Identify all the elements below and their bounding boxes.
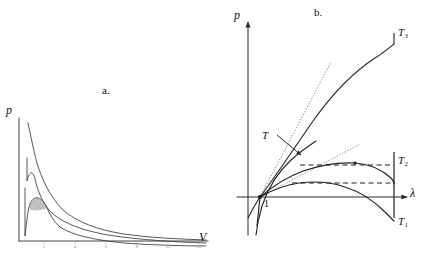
panel-b-tangent-upper (260, 62, 331, 197)
panel-b-curve-label-T1: T1 (398, 216, 408, 228)
panel-a-tick-label-0: 2 (43, 244, 46, 249)
panel-b-curve-steep (256, 141, 316, 235)
panel-b-curve-label-T3-base: T (398, 26, 404, 38)
panel-a-x-axis-label: V (199, 231, 206, 243)
panel-a-y-axis-label: p (6, 104, 12, 116)
panel-b-curve-label-T3-sub: 3 (405, 32, 408, 39)
panel-b-T2-crest-dot (354, 162, 357, 165)
panel-b-curve-label-T2-sub: 2 (405, 160, 408, 167)
panel-b-tag: b. (314, 6, 322, 18)
panel-a-loop-shading (29, 198, 47, 211)
panel-b-curve-T1 (260, 182, 394, 221)
panel-b-origin-node (258, 195, 262, 199)
panel-b-origin-label: 1 (264, 199, 269, 209)
panel-a-curve-upper (28, 123, 206, 240)
panel-a-tick-label-1: 4 (74, 244, 77, 249)
panel-a: a. p V 2 4 6 8 10 12 (0, 0, 215, 253)
panel-b-curve-label-T2: T2 (398, 155, 408, 167)
panel-b-x-axis-label: λ (410, 187, 415, 199)
panel-b-T-label: T (262, 130, 268, 141)
panel-a-tag: a. (102, 84, 110, 96)
panel-a-tick-label-3: 8 (136, 244, 139, 249)
panel-b-curve-label-T1-sub: 1 (405, 221, 408, 228)
panel-b-curve-label-T2-base: T (398, 154, 404, 166)
panel-a-tick-label-4: 10 (166, 244, 171, 249)
panel-b-curve-label-T3: T3 (398, 27, 408, 39)
panel-b-curve-label-T1-base: T (398, 215, 404, 227)
panel-a-tick-label-2: 6 (105, 244, 108, 249)
panel-a-plot (0, 0, 215, 253)
panel-b: b. p λ T 1 T3 T2 T1 (215, 0, 429, 253)
panel-b-y-axis-label: p (234, 9, 240, 21)
panel-b-plot (215, 0, 429, 253)
panel-b-T-pointer-arrow (277, 135, 301, 155)
figure-root: a. p V 2 4 6 8 10 12 (0, 0, 429, 253)
panel-a-tick-label-5: 12 (197, 244, 202, 249)
panel-a-curve-critical (27, 158, 206, 243)
panel-b-curve-T3 (260, 44, 394, 197)
